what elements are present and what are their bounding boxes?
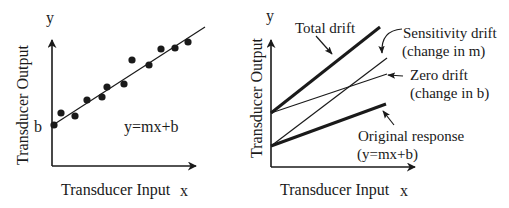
left-y-symbol: y xyxy=(46,9,54,27)
zero-drift-sublabel: (change in b) xyxy=(410,85,489,102)
sensitivity-drift-sublabel: (change in m) xyxy=(402,43,485,60)
original-response-pointer xyxy=(383,111,394,125)
data-point xyxy=(184,38,191,45)
zero-drift-label: Zero drift xyxy=(410,67,469,83)
left-intercept-label: b xyxy=(34,118,42,135)
left-x-symbol: x xyxy=(180,182,188,199)
total-drift-label: Total drift xyxy=(295,20,356,36)
drift-diagram: y x b y=mx+b Transducer Input Transducer… xyxy=(0,0,509,208)
data-point xyxy=(50,121,57,128)
right-y-symbol: y xyxy=(266,7,274,25)
total-drift-pointer xyxy=(316,36,332,54)
right-x-axis-label: Transducer Input xyxy=(280,181,390,199)
left-calibration-plot: y x b y=mx+b Transducer Input Transducer… xyxy=(14,9,205,199)
sensitivity-drift-label: Sensitivity drift xyxy=(403,25,498,41)
sensitivity-drift-pointer xyxy=(382,29,402,53)
left-equation: y=mx+b xyxy=(124,118,179,136)
total-drift-line xyxy=(271,27,380,113)
zero-drift-pointer xyxy=(388,75,403,76)
data-point xyxy=(71,112,78,119)
data-point xyxy=(83,96,90,103)
data-point xyxy=(98,93,105,100)
data-point xyxy=(145,61,152,68)
right-x-symbol: x xyxy=(400,182,408,199)
original-response-label: Original response xyxy=(358,128,465,144)
data-point xyxy=(57,109,64,116)
zero-drift-line xyxy=(271,74,387,113)
left-x-axis-label: Transducer Input xyxy=(61,181,171,199)
left-y-axis-label: Transducer Output xyxy=(14,45,32,165)
original-response-sublabel: (y=mx+b) xyxy=(357,146,418,163)
data-point xyxy=(128,56,135,63)
data-point xyxy=(120,80,127,87)
data-point xyxy=(103,83,110,90)
left-data-points xyxy=(50,38,191,128)
left-fit-line xyxy=(53,27,205,125)
data-point xyxy=(171,44,178,51)
data-point xyxy=(157,45,164,52)
right-drift-plot: y x Transducer Input Transducer Output T… xyxy=(248,7,498,199)
right-y-axis-label: Transducer Output xyxy=(248,38,266,158)
